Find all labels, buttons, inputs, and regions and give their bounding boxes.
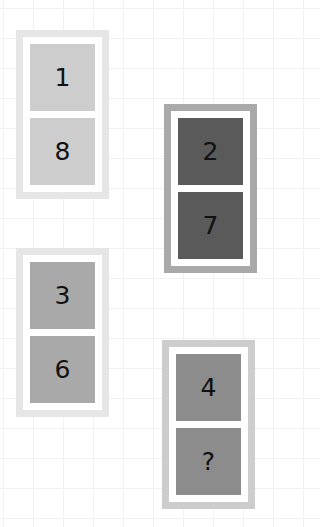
card-3: 3 6	[16, 248, 109, 417]
card-1-top-tile: 1	[30, 44, 95, 111]
card-4-top-tile: 4	[176, 354, 241, 421]
card-1: 1 8	[16, 30, 109, 199]
card-2-top-tile: 2	[178, 118, 243, 185]
card-3-top-tile: 3	[30, 262, 95, 329]
card-2-bottom-tile: 7	[178, 192, 243, 259]
card-2: 2 7	[164, 104, 257, 273]
card-4: 4 ?	[162, 340, 255, 509]
card-4-bottom-tile-unknown: ?	[176, 428, 241, 495]
card-1-bottom-tile: 8	[30, 118, 95, 185]
card-3-bottom-tile: 6	[30, 336, 95, 403]
